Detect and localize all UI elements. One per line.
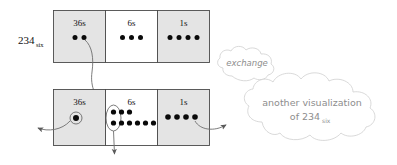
dot (177, 35, 182, 40)
dot (151, 120, 156, 125)
diagram-canvas: 234 six 36s 6s (0, 0, 397, 165)
dot (111, 109, 116, 114)
dot (120, 35, 125, 40)
exchange-cloud-label: exchange (226, 58, 268, 68)
dot (135, 120, 140, 125)
top-table: 36s 6s 1s (54, 11, 210, 63)
left-number-value: 234 (18, 34, 35, 46)
left-number-subscript: six (36, 41, 44, 48)
bottom-cell-1s: 1s (158, 90, 210, 146)
bottom-cell-36s-place-label: 36s (73, 97, 86, 107)
dot (143, 120, 148, 125)
top-cell-6s-place-label: 6s (127, 18, 136, 28)
dot (111, 120, 116, 125)
dot (183, 114, 189, 120)
top-cell-36s-place-label: 36s (73, 18, 86, 28)
dot (119, 120, 124, 125)
dot (192, 114, 198, 120)
dot (168, 35, 173, 40)
dot (127, 109, 132, 114)
dot (186, 35, 191, 40)
dot (73, 115, 79, 121)
dot (195, 35, 200, 40)
dot (127, 120, 132, 125)
dot (129, 35, 134, 40)
bottom-cell-6s-place-label: 6s (127, 97, 136, 107)
another-visualization-cloud-line-2: of 234 (290, 111, 320, 122)
top-cell-6s: 6s (106, 11, 158, 63)
dot (82, 35, 87, 40)
top-cell-1s: 1s (158, 11, 210, 63)
dot (73, 35, 78, 40)
bottom-cell-6s: 6s (106, 90, 158, 146)
another-visualization-cloud-line-1: another visualization (262, 97, 362, 108)
dot (165, 114, 171, 120)
exchange-cloud: exchange (218, 46, 274, 80)
left-number-label: 234 six (18, 34, 44, 48)
top-cell-6s-dots (120, 35, 143, 40)
another-visualization-cloud-subscript: six (322, 117, 331, 124)
bottom-cell-36s: 36s (54, 90, 106, 146)
dot (138, 35, 143, 40)
bottom-cell-1s-place-label: 1s (179, 97, 188, 107)
dot (119, 109, 124, 114)
bottom-table: 36s 6s (54, 90, 210, 146)
bottom-cell-6s-dot-row-1 (111, 109, 132, 114)
another-visualization-cloud: another visualization of 234 six (244, 73, 375, 141)
dot (174, 114, 180, 120)
top-cell-1s-place-label: 1s (179, 18, 188, 28)
top-cell-36s: 36s (54, 11, 106, 63)
